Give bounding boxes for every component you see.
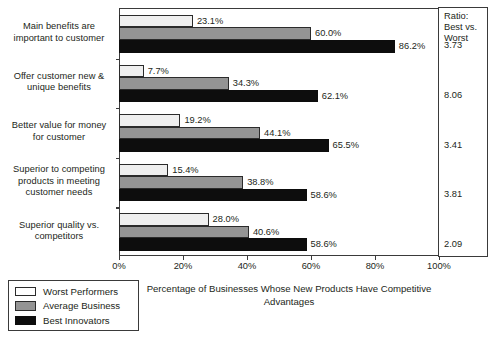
category-label: Better value for moneyfor customer [2, 120, 116, 143]
bar-row: 44.1% [119, 127, 439, 140]
category-tick [116, 108, 120, 109]
bar-row: 28.0% [119, 213, 439, 226]
ratio-header-line: Ratio: [444, 11, 477, 22]
bar-row: 65.5% [119, 139, 439, 152]
x-axis-title: Percentage of Businesses Whose New Produ… [124, 282, 454, 308]
category-tick [116, 59, 120, 60]
category-label-line: Offer customer new & [2, 71, 116, 83]
x-axis-tick-label: 40% [238, 261, 257, 271]
x-axis-title-line: Percentage of Businesses Whose New Produ… [124, 282, 454, 295]
bar-value-label: 60.0% [311, 27, 341, 40]
bar-value-label: 23.1% [193, 15, 223, 28]
bar[interactable] [119, 77, 229, 90]
bar[interactable] [119, 164, 168, 177]
category-label: Superior quality vs.competitors [2, 220, 116, 243]
bar[interactable] [119, 139, 329, 152]
bar-value-label: 44.1% [260, 127, 290, 140]
bar-value-label: 7.7% [144, 65, 169, 78]
category-label-line: Superior quality vs. [2, 220, 116, 232]
bar-row: 62.1% [119, 90, 439, 103]
ratio-value: 3.41 [444, 140, 462, 150]
bar-group: 28.0%40.6%58.6% [119, 213, 439, 251]
bar-row: 86.2% [119, 40, 439, 53]
legend-swatch [15, 287, 36, 297]
ratio-panel: Ratio:Best vs.Worst 3.738.063.413.812.09 [438, 7, 488, 257]
bar-row: 38.8% [119, 176, 439, 189]
x-axis-tick-label: 20% [174, 261, 193, 271]
bar[interactable] [119, 40, 395, 53]
x-axis-tick [375, 256, 376, 260]
x-axis-tick-label: 100% [427, 261, 451, 271]
legend-swatch [15, 301, 36, 311]
legend-label: Best Innovators [43, 315, 110, 326]
bar-row: 15.4% [119, 164, 439, 177]
category-label-line: Main benefits are [2, 21, 116, 33]
plot-area: 23.1%60.0%86.2%7.7%34.3%62.1%19.2%44.1%6… [119, 8, 439, 256]
bar-chart: Main benefits areimportant to customerOf… [0, 0, 496, 340]
legend-item[interactable]: Average Business [15, 299, 138, 314]
bar-row: 23.1% [119, 15, 439, 28]
bar-row: 7.7% [119, 65, 439, 78]
bar[interactable] [119, 238, 307, 251]
bar-value-label: 40.6% [249, 226, 279, 239]
bar-group: 7.7%34.3%62.1% [119, 65, 439, 103]
category-label-line: competitors [2, 231, 116, 243]
category-axis-labels: Main benefits areimportant to customerOf… [2, 8, 116, 256]
bar[interactable] [119, 114, 180, 127]
bar-value-label: 28.0% [209, 213, 239, 226]
bar-value-label: 19.2% [180, 114, 210, 127]
legend-item[interactable]: Best Innovators [15, 313, 138, 328]
x-axis-tick [119, 256, 120, 260]
bar[interactable] [119, 90, 318, 103]
bar-value-label: 58.6% [307, 189, 337, 202]
bar-row: 34.3% [119, 77, 439, 90]
category-tick [116, 207, 120, 208]
bar[interactable] [119, 176, 243, 189]
x-axis-tick [247, 256, 248, 260]
x-axis-tick-label: 80% [366, 261, 385, 271]
category-label-line: unique benefits [2, 82, 116, 94]
bar-row: 19.2% [119, 114, 439, 127]
bar[interactable] [119, 226, 249, 239]
bar-group: 15.4%38.8%58.6% [119, 164, 439, 202]
legend-label: Worst Performers [43, 286, 118, 297]
bar[interactable] [119, 27, 311, 40]
category-label-line: Superior to competing [2, 164, 116, 176]
x-axis-tick-label: 60% [302, 261, 321, 271]
legend-item[interactable]: Worst Performers [15, 284, 138, 299]
value-axis: 0%20%40%60%80%100% [119, 256, 439, 276]
bar-row: 60.0% [119, 27, 439, 40]
bar-value-label: 62.1% [318, 90, 348, 103]
bar-row: 40.6% [119, 226, 439, 239]
bar-group: 19.2%44.1%65.5% [119, 114, 439, 152]
x-axis-tick-label: 0% [112, 261, 125, 271]
bar[interactable] [119, 213, 209, 226]
category-tick [116, 158, 120, 159]
ratio-value: 3.81 [444, 189, 462, 199]
category-label-line: for customer [2, 132, 116, 144]
bar-row: 58.6% [119, 189, 439, 202]
category-label: Offer customer new &unique benefits [2, 71, 116, 94]
category-label: Superior to competingproducts in meeting… [2, 164, 116, 199]
bar[interactable] [119, 65, 144, 78]
bar[interactable] [119, 189, 307, 202]
legend-label: Average Business [43, 300, 120, 311]
bar[interactable] [119, 15, 193, 28]
bar-value-label: 38.8% [243, 176, 273, 189]
legend: Worst PerformersAverage BusinessBest Inn… [8, 280, 139, 331]
ratio-header-line: Best vs. [444, 22, 477, 33]
category-label-line: customer needs [2, 187, 116, 199]
ratio-value: 2.09 [444, 239, 462, 249]
bar-group: 23.1%60.0%86.2% [119, 15, 439, 53]
bar-value-label: 15.4% [168, 164, 198, 177]
category-label-line: important to customer [2, 33, 116, 45]
x-axis-title-line: Advantages [124, 295, 454, 308]
bar-row: 58.6% [119, 238, 439, 251]
bar-value-label: 65.5% [329, 139, 359, 152]
category-label-line: Better value for money [2, 120, 116, 132]
bar-value-label: 58.6% [307, 238, 337, 251]
ratio-value: 3.73 [444, 40, 462, 50]
category-label: Main benefits areimportant to customer [2, 21, 116, 44]
legend-swatch [15, 316, 36, 326]
bar[interactable] [119, 127, 260, 140]
